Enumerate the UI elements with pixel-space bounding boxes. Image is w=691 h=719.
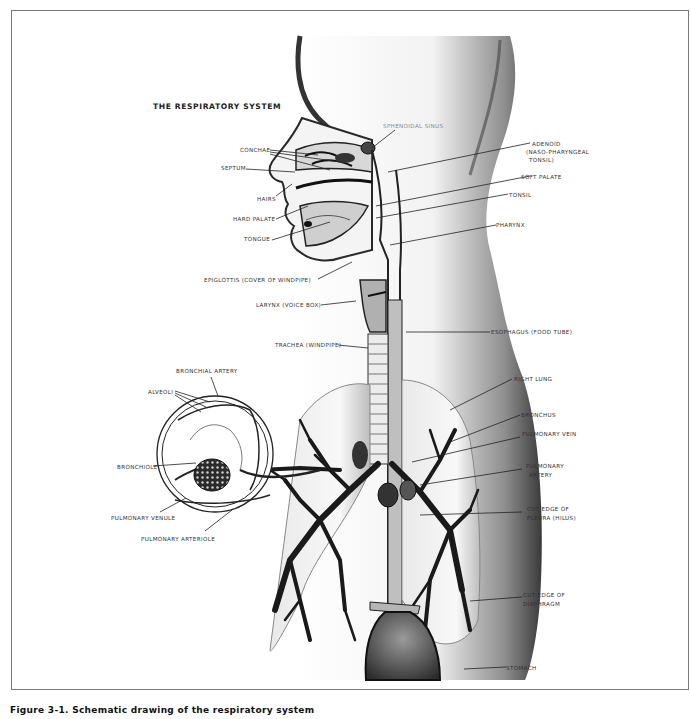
label-bronchus: BRONCHUS xyxy=(521,411,556,420)
label-hairs: HAIRS xyxy=(257,195,276,204)
figure-title: THE RESPIRATORY SYSTEM xyxy=(153,102,281,111)
label-pulmonary-arteriole: PULMONARY ARTERIOLE xyxy=(141,535,215,544)
label-bronchial-artery: BRONCHIAL ARTERY xyxy=(176,367,238,376)
label-larynx: LARYNX (VOICE BOX) xyxy=(256,301,321,310)
label-cut-edge-pleura-sub: PLEURA (HILUS) xyxy=(527,514,576,523)
label-bronchiole: BRONCHIOLE xyxy=(117,463,158,472)
respiratory-system-illustration xyxy=(0,0,691,719)
label-pulmonary-artery: PULMONARY xyxy=(526,462,564,471)
label-pharynx: PHARYNX xyxy=(496,221,525,230)
label-stomach: STOMACH xyxy=(506,664,537,673)
label-conchae: CONCHAE xyxy=(240,146,270,155)
label-right-lung: RIGHT LUNG xyxy=(514,375,552,384)
label-tonsil: TONSIL xyxy=(509,191,531,200)
label-trachea: TRACHEA (WINDPIPE) xyxy=(275,341,341,350)
label-pulmonary-vein: PULMONARY VEIN xyxy=(522,430,577,439)
label-soft-palate: SOFT PALATE xyxy=(521,173,562,182)
label-alveoli: ALVEOLI xyxy=(148,388,173,397)
label-septum: SEPTUM xyxy=(221,164,246,173)
label-cut-edge-pleura: CUT EDGE OF xyxy=(527,505,569,514)
label-hard-palate: HARD PALATE xyxy=(233,215,275,224)
figure-caption: Figure 3-1. Schematic drawing of the res… xyxy=(10,705,314,715)
label-sphenoidal-sinus: SPHENOIDAL SINUS xyxy=(383,122,443,131)
label-epiglottis: EPIGLOTTIS (COVER OF WINDPIPE) xyxy=(204,276,311,285)
label-pulmonary-venule: PULMONARY VENULE xyxy=(111,514,175,523)
label-tongue: TONGUE xyxy=(244,235,270,244)
label-cut-edge-diaphragm-sub: DIAPHRAGM xyxy=(523,600,560,609)
label-cut-edge-diaphragm: CUT EDGE OF xyxy=(523,591,565,600)
label-pulmonary-artery-sub: ARTERY xyxy=(529,471,552,480)
label-esophagus: ESOPHAGUS (FOOD TUBE) xyxy=(491,328,572,337)
label-adenoid-sub2: TONSIL) xyxy=(529,156,554,165)
